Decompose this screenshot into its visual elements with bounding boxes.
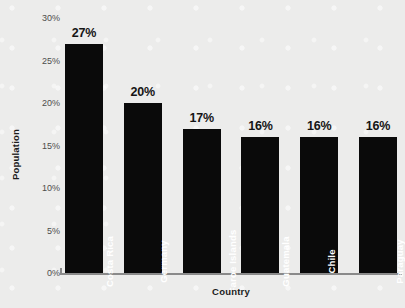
y-axis-tick-label: 0% bbox=[28, 268, 60, 278]
bar[interactable]: Faroe Islands bbox=[183, 129, 221, 274]
bar-group: 16%Guatemala bbox=[241, 18, 279, 273]
bar-category-label: Chile bbox=[325, 249, 336, 273]
bar[interactable]: Paraguay bbox=[359, 137, 397, 273]
bar-group: 17%Faroe Islands bbox=[183, 18, 221, 273]
bar-value-label: 16% bbox=[248, 119, 272, 133]
y-axis-tick-label: 30% bbox=[28, 13, 60, 23]
bar-category-label: Paraguay bbox=[394, 239, 405, 283]
bar-category-label: Faroe Islands bbox=[228, 230, 239, 294]
y-axis-tick-labels: 0%5%10%15%20%25%30% bbox=[28, 0, 60, 308]
bar-value-label: 16% bbox=[366, 119, 390, 133]
y-axis-tick-label: 5% bbox=[28, 226, 60, 236]
bar[interactable]: Germany bbox=[124, 103, 162, 273]
bar[interactable]: Chile bbox=[300, 137, 338, 273]
bar-value-label: 27% bbox=[72, 26, 96, 40]
bar-category-label: Germany bbox=[158, 240, 169, 283]
bar[interactable]: Costa Rica bbox=[65, 44, 103, 274]
bar-group: 20%Germany bbox=[124, 18, 162, 273]
x-axis-title: Country bbox=[62, 286, 400, 297]
bar-value-label: 20% bbox=[131, 85, 155, 99]
y-axis-tick-label: 20% bbox=[28, 98, 60, 108]
bar-value-label: 17% bbox=[189, 111, 213, 125]
y-axis-tick-label: 15% bbox=[28, 141, 60, 151]
y-axis-tick-label: 10% bbox=[28, 183, 60, 193]
bar-category-label: Costa Rica bbox=[104, 236, 115, 287]
bar-series: 27%Costa Rica20%Germany17%Faroe Islands1… bbox=[62, 18, 400, 273]
bar-value-label: 16% bbox=[307, 119, 331, 133]
bar-group: 27%Costa Rica bbox=[65, 18, 103, 273]
bar-group: 16%Chile bbox=[300, 18, 338, 273]
bar-category-label: Guatemala bbox=[280, 236, 291, 286]
bar[interactable]: Guatemala bbox=[241, 137, 279, 273]
y-axis-title: Population bbox=[6, 104, 26, 204]
y-axis-title-label: Population bbox=[11, 128, 22, 179]
bar-group: 16%Paraguay bbox=[359, 18, 397, 273]
y-axis-tick-label: 25% bbox=[28, 56, 60, 66]
plot-area: 27%Costa Rica20%Germany17%Faroe Islands1… bbox=[62, 18, 400, 273]
